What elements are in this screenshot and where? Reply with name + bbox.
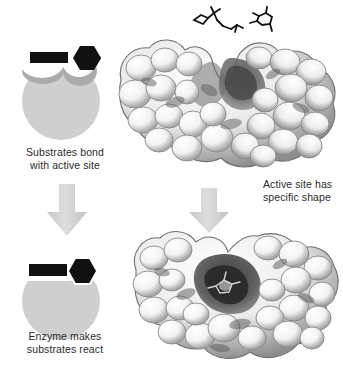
unbound-enzyme-schematic [0, 40, 118, 140]
down-arrow-left [46, 184, 88, 240]
caption-step-1-line-1: Substrates bond [0, 146, 130, 159]
caption-active-site: Active site has specific shape [263, 178, 343, 204]
caption-active-site-line-1: Active site has [263, 178, 343, 191]
caption-step-1-line-2: with active site [0, 159, 130, 172]
rectangular-substrate-icon-bound [29, 264, 67, 276]
caption-step-2-line-2: substrates react [0, 343, 130, 356]
rectangular-substrate-icon-front [30, 52, 68, 63]
protein-surface-open [113, 28, 343, 180]
protein-surface-closed [128, 224, 343, 370]
caption-active-site-line-2: specific shape [263, 191, 343, 204]
caption-step-1: Substrates bond with active site [0, 146, 130, 172]
caption-step-2-line-1: Enzyme makes [0, 330, 130, 343]
figure-canvas: Substrates bond with active site Enzy [0, 0, 343, 388]
caption-step-2: Enzyme makes substrates react [0, 330, 130, 356]
bound-enzyme-schematic [0, 252, 118, 342]
